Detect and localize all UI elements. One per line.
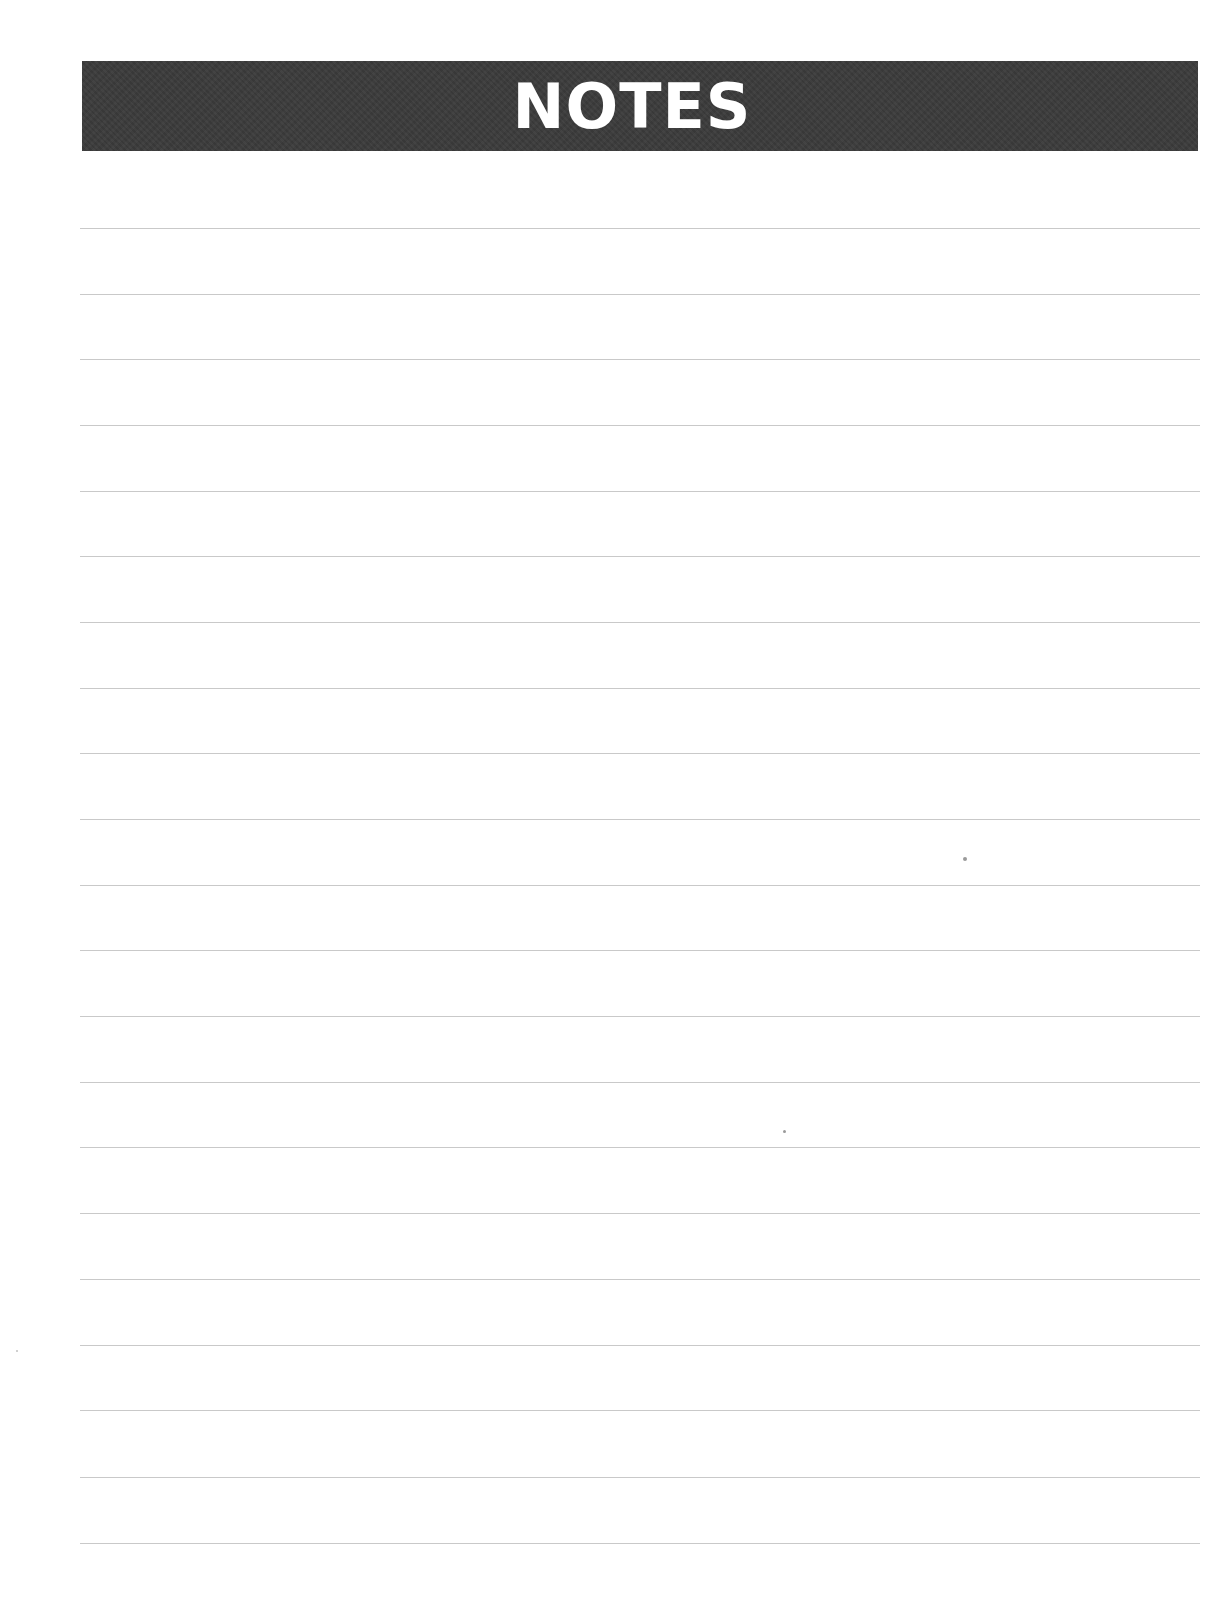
writing-line-5[interactable] bbox=[80, 491, 1200, 492]
writing-line-19[interactable] bbox=[80, 1410, 1200, 1411]
writing-line-12[interactable] bbox=[80, 950, 1200, 951]
ruled-lines-area bbox=[80, 0, 1200, 1620]
writing-line-16[interactable] bbox=[80, 1213, 1200, 1214]
writing-line-11[interactable] bbox=[80, 885, 1200, 886]
writing-line-1[interactable] bbox=[80, 228, 1200, 229]
writing-line-18[interactable] bbox=[80, 1345, 1200, 1346]
writing-line-7[interactable] bbox=[80, 622, 1200, 623]
writing-line-2[interactable] bbox=[80, 294, 1200, 295]
paper-speck bbox=[783, 1130, 786, 1133]
writing-line-14[interactable] bbox=[80, 1082, 1200, 1083]
writing-line-3[interactable] bbox=[80, 359, 1200, 360]
paper-speck bbox=[16, 1350, 18, 1352]
writing-line-10[interactable] bbox=[80, 819, 1200, 820]
writing-line-17[interactable] bbox=[80, 1279, 1200, 1280]
writing-line-20[interactable] bbox=[80, 1477, 1200, 1478]
writing-line-13[interactable] bbox=[80, 1016, 1200, 1017]
paper-speck bbox=[963, 857, 967, 861]
writing-line-8[interactable] bbox=[80, 688, 1200, 689]
writing-line-4[interactable] bbox=[80, 425, 1200, 426]
writing-line-15[interactable] bbox=[80, 1147, 1200, 1148]
writing-line-9[interactable] bbox=[80, 753, 1200, 754]
writing-line-6[interactable] bbox=[80, 556, 1200, 557]
writing-line-21[interactable] bbox=[80, 1543, 1200, 1544]
